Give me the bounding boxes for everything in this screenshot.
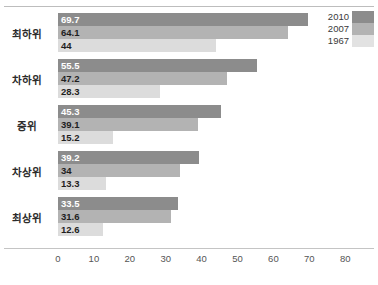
bar-차하위-2010: 55.5 [58,59,257,72]
bar-중위-1967: 15.2 [58,131,113,144]
bar-value-label: 47.2 [58,74,80,84]
bar-value-label: 13.3 [58,179,80,189]
bar-최하위-2007: 64.1 [58,26,288,39]
x-tick-80: 80 [340,253,351,264]
bar-중위-2010: 45.3 [58,105,221,118]
bar-최하위-2010: 69.7 [58,13,308,26]
legend-labels: 201020071967 [328,11,352,47]
x-tick-60: 60 [268,253,279,264]
bar-chart: 69.764.144최하위55.547.228.3차하위45.339.115.2… [0,0,378,285]
bar-최상위-1967: 12.6 [58,223,103,236]
plot-area: 69.764.144최하위55.547.228.3차하위45.339.115.2… [0,0,378,285]
bar-최하위-1967: 44 [58,39,216,52]
category-label-최상위: 최상위 [0,210,54,225]
x-tick-50: 50 [232,253,243,264]
bar-value-label: 12.6 [58,225,80,235]
bar-최상위-2010: 33.5 [58,197,178,210]
bar-value-label: 39.1 [58,120,80,130]
category-label-최하위: 최하위 [0,26,54,41]
legend-swatches [352,11,374,47]
bar-차하위-2007: 47.2 [58,72,227,85]
x-tick-10: 10 [89,253,100,264]
bar-value-label: 69.7 [58,15,80,25]
legend-swatch-2007 [352,23,374,35]
x-tick-40: 40 [196,253,207,264]
bar-value-label: 34 [58,166,72,176]
bar-value-label: 15.2 [58,133,80,143]
legend-swatch-1967 [352,35,374,47]
x-tick-30: 30 [160,253,171,264]
bar-value-label: 33.5 [58,199,80,209]
bar-value-label: 45.3 [58,107,80,117]
bar-중위-2007: 39.1 [58,118,198,131]
bar-차상위-2007: 34 [58,164,180,177]
bar-차상위-1967: 13.3 [58,177,106,190]
bar-value-label: 39.2 [58,153,80,163]
legend-label-2007: 2007 [328,23,352,35]
category-label-중위: 중위 [0,118,54,133]
legend: 201020071967 [328,11,374,47]
x-axis-line [4,248,374,249]
bar-차상위-2010: 39.2 [58,151,199,164]
category-label-차하위: 차하위 [0,72,54,87]
x-tick-70: 70 [304,253,315,264]
bar-최상위-2007: 31.6 [58,210,171,223]
legend-swatch-2010 [352,11,374,23]
bar-value-label: 55.5 [58,61,80,71]
legend-label-2010: 2010 [328,11,352,23]
x-tick-0: 0 [55,253,60,264]
legend-label-1967: 1967 [328,35,352,47]
bar-value-label: 44 [58,41,72,51]
x-tick-20: 20 [125,253,136,264]
bar-value-label: 28.3 [58,87,80,97]
bar-차하위-1967: 28.3 [58,85,160,98]
bar-value-label: 31.6 [58,212,80,222]
bar-value-label: 64.1 [58,28,80,38]
category-label-차상위: 차상위 [0,164,54,179]
